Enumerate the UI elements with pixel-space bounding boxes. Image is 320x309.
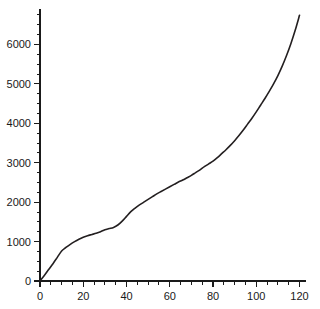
y-tick-label: 6000	[7, 38, 31, 50]
y-tick-label: 3000	[7, 157, 31, 169]
x-tick-label: 80	[207, 290, 219, 302]
y-tick-label: 2000	[7, 196, 31, 208]
x-tick-label: 0	[37, 290, 43, 302]
x-tick-label: 100	[247, 290, 265, 302]
data-series-group	[40, 15, 300, 281]
x-tick-label: 60	[164, 290, 176, 302]
y-tick-label: 4000	[7, 117, 31, 129]
x-tick-label: 40	[120, 290, 132, 302]
axes-group	[40, 9, 306, 281]
line-chart-plot: 0100020003000400050006000020406080100120	[0, 0, 320, 309]
data-line-curve	[40, 15, 300, 281]
ticks-group	[34, 15, 300, 287]
x-tick-label: 120	[290, 290, 308, 302]
y-tick-label: 5000	[7, 78, 31, 90]
chart-container: 0100020003000400050006000020406080100120	[0, 0, 320, 309]
y-tick-label: 1000	[7, 236, 31, 248]
y-tick-label: 0	[25, 275, 31, 287]
tick-labels-group: 0100020003000400050006000020406080100120	[7, 38, 309, 302]
x-tick-label: 20	[77, 290, 89, 302]
